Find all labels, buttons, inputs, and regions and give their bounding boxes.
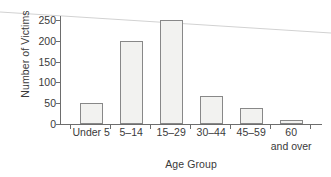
bar	[120, 41, 143, 124]
bar-chart-figure: Number of Victims 050100150200250 Under …	[0, 0, 331, 177]
y-axis-tick-label: 50	[32, 98, 56, 108]
y-axis-tick	[56, 124, 61, 125]
y-axis-tick-labels: 050100150200250	[30, 0, 56, 177]
bar	[80, 103, 103, 124]
y-axis-tick	[56, 82, 61, 83]
y-axis-tick	[56, 62, 61, 63]
y-axis-tick-label: 200	[32, 36, 56, 46]
y-axis-tick	[56, 41, 61, 42]
x-axis-tick-labels: Under 55–1415–2930–4445–5960and over	[60, 126, 331, 160]
x-axis-tick-label-line2: and over	[251, 140, 331, 152]
bar	[200, 96, 223, 124]
x-axis-tick-label: 60and over	[251, 126, 331, 152]
y-axis-tick-label: 150	[32, 57, 56, 67]
y-axis-tick-label: 100	[32, 77, 56, 87]
bar	[240, 108, 263, 124]
y-axis-tick	[56, 103, 61, 104]
y-axis-line	[60, 16, 61, 125]
plot-area	[60, 16, 322, 124]
x-axis-line	[60, 124, 322, 125]
bar	[280, 120, 303, 124]
y-axis-tick-label: 250	[32, 15, 56, 25]
x-axis-title: Age Group	[60, 158, 322, 170]
y-axis-tick	[56, 20, 61, 21]
bar	[160, 20, 183, 124]
